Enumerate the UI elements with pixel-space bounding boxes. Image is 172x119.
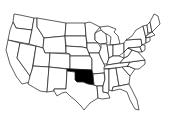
states: [6, 14, 160, 110]
state-north-dakota: [65, 23, 86, 36]
state-iowa: [87, 43, 101, 53]
state-colorado: [49, 53, 70, 69]
state-florida: [112, 84, 139, 110]
us-map: [0, 0, 172, 119]
state-wyoming: [43, 36, 66, 53]
state-kansas: [70, 56, 92, 70]
state-maine: [150, 14, 160, 32]
state-connecticut: [146, 37, 150, 43]
state-new-mexico: [47, 67, 67, 92]
state-ohio: [113, 43, 124, 56]
